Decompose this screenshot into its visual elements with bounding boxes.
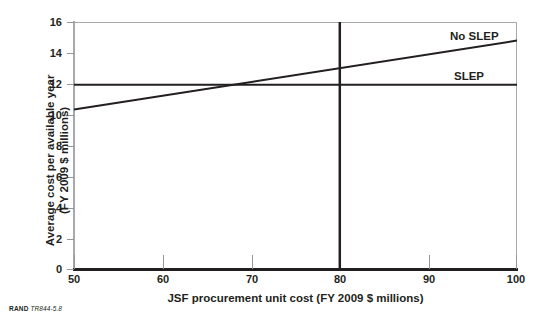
series-label-slep: SLEP: [454, 70, 484, 82]
series-label-no-slep: No SLEP: [450, 30, 499, 42]
x-axis-line: [73, 268, 518, 271]
x-tick-90: [429, 255, 430, 269]
x-tick-label-80: 80: [334, 274, 346, 285]
y-tick-label-16: 16: [38, 17, 62, 28]
y-axis-title: Average cost per available year (FY 2009…: [43, 35, 72, 285]
x-tick-label-90: 90: [423, 274, 435, 285]
source-note: RAND TR844-5.8: [9, 305, 62, 312]
y-tick-16: [67, 22, 74, 23]
plot-area: [74, 22, 517, 270]
y-axis-title-line2: (FY 2009 $ millions): [58, 107, 70, 214]
x-tick-80: [340, 255, 341, 269]
source-note-brand: RAND: [9, 305, 29, 312]
x-tick-100: [516, 255, 517, 269]
figure-container: 16 14 12 10 8 6 4 2 0 50 60 70 80 90 100…: [0, 0, 548, 333]
x-tick-label-100: 100: [507, 274, 525, 285]
source-note-code: TR844-5.8: [30, 305, 62, 312]
x-tick-60: [163, 255, 164, 269]
y-axis-title-line1: Average cost per available year: [44, 75, 56, 247]
x-tick-label-70: 70: [246, 274, 258, 285]
x-axis-title: JSF procurement unit cost (FY 2009 $ mil…: [74, 292, 517, 304]
x-tick-label-60: 60: [157, 274, 169, 285]
x-tick-70: [252, 255, 253, 269]
x-tick-50: [74, 255, 75, 269]
